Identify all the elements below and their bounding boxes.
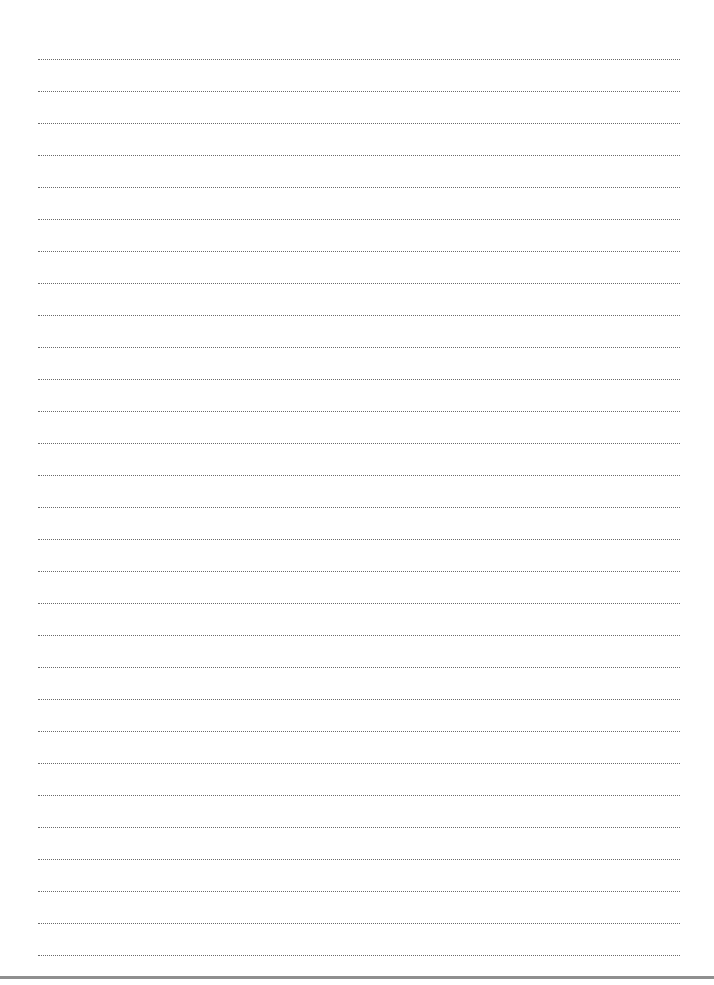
dotted-rule-line [38, 635, 680, 636]
dotted-rule-line [38, 251, 680, 252]
dotted-rule-line [38, 955, 680, 956]
dotted-rule-line [38, 347, 680, 348]
dotted-rule-line [38, 827, 680, 828]
dotted-rule-line [38, 667, 680, 668]
dotted-rule-line [38, 571, 680, 572]
dotted-rule-line [38, 155, 680, 156]
dotted-rule-line [38, 603, 680, 604]
dotted-rule-line [38, 859, 680, 860]
dotted-rule-line [38, 507, 680, 508]
dotted-rule-line [38, 443, 680, 444]
dotted-rule-line [38, 315, 680, 316]
bottom-border-bar [0, 976, 714, 979]
dotted-rule-line [38, 91, 680, 92]
dotted-rule-line [38, 283, 680, 284]
dotted-rule-line [38, 219, 680, 220]
dotted-rule-line [38, 123, 680, 124]
dotted-rule-line [38, 891, 680, 892]
dotted-rule-line [38, 795, 680, 796]
dotted-rule-line [38, 923, 680, 924]
dotted-rule-line [38, 379, 680, 380]
dotted-rule-line [38, 539, 680, 540]
dotted-rule-line [38, 475, 680, 476]
dotted-rule-line [38, 763, 680, 764]
dotted-rule-line [38, 187, 680, 188]
dotted-rule-line [38, 411, 680, 412]
dotted-rule-line [38, 731, 680, 732]
dotted-rule-line [38, 59, 680, 60]
dotted-rule-line [38, 699, 680, 700]
